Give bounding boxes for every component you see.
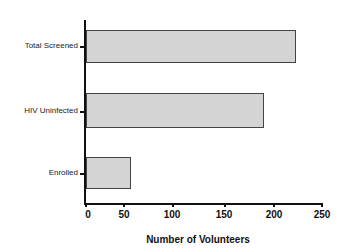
x-tick-label: 50 [118,209,129,220]
horizontal-bar-chart: Total Screened HIV Uninfected Enrolled 0… [0,0,346,252]
bar-enrolled [86,157,131,189]
y-tick [80,173,84,175]
x-tick [172,204,174,207]
x-tick-label: 250 [314,209,331,220]
category-label-total-screened: Total Screened [25,41,78,50]
bar-hiv-uninfected [86,93,264,128]
category-label-enrolled: Enrolled [49,168,78,177]
x-tick [123,204,125,207]
x-tick-label: 200 [266,209,283,220]
x-tick-label: 0 [85,209,91,220]
x-tick [321,204,323,207]
x-tick-label: 150 [216,209,233,220]
x-axis-title: Number of Volunteers [146,234,250,245]
x-tick [273,204,275,207]
x-tick [85,204,87,207]
bar-total-screened [86,30,296,63]
x-axis-line [84,203,323,205]
x-tick-label: 100 [164,209,181,220]
x-tick [224,204,226,207]
y-tick [80,111,84,113]
y-tick [80,46,84,48]
category-label-hiv-uninfected: HIV Uninfected [24,106,78,115]
